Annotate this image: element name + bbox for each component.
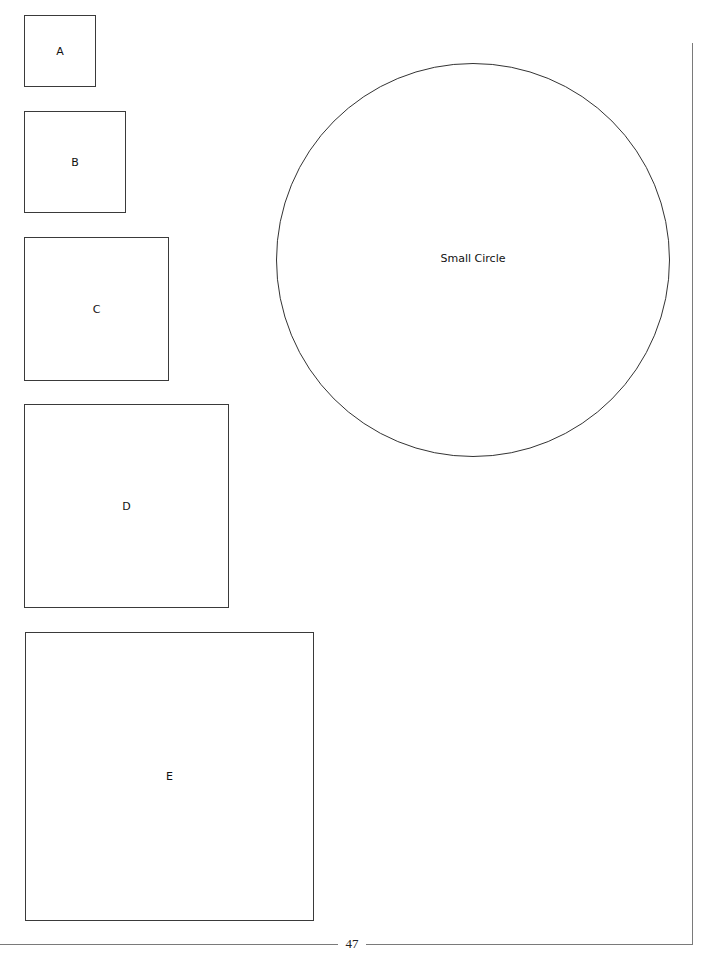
square-d: D: [24, 404, 229, 608]
square-d-label: D: [122, 500, 130, 513]
page-number: 47: [337, 936, 367, 952]
square-b-label: B: [71, 156, 79, 169]
square-e-label: E: [166, 770, 173, 783]
square-c-label: C: [93, 303, 101, 316]
small-circle-label: Small Circle: [441, 252, 506, 265]
square-a: A: [24, 15, 96, 87]
footer-rule-left: [0, 944, 338, 945]
small-circle: Small Circle: [276, 63, 670, 457]
square-e: E: [25, 632, 314, 921]
square-a-label: A: [56, 45, 64, 58]
square-b: B: [24, 111, 126, 213]
square-c: C: [24, 237, 169, 381]
page-frame-right-rule: [692, 43, 693, 945]
footer-rule-right: [366, 944, 693, 945]
